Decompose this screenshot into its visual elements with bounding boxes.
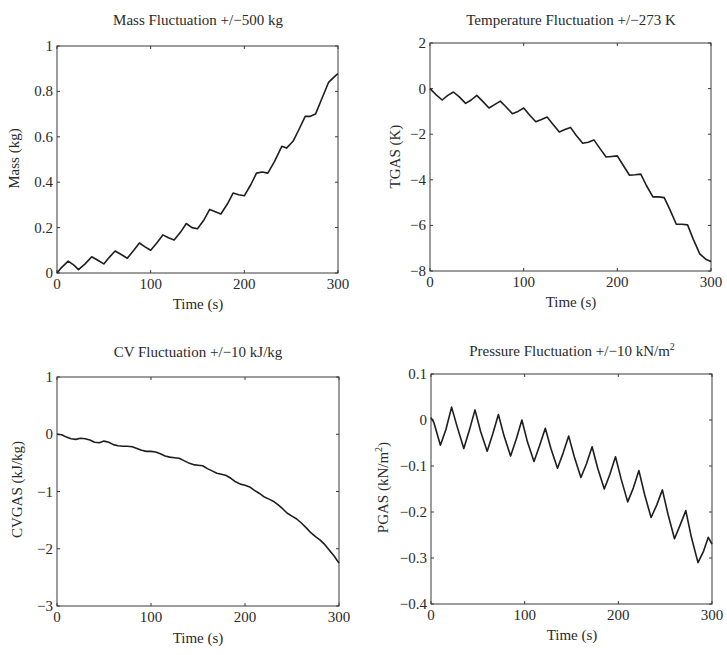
x-tick-label: 300 xyxy=(701,607,724,623)
y-tick-label: −0.3 xyxy=(400,550,427,566)
y-tick-label: 0.1 xyxy=(408,366,427,382)
y-tick-label: 0 xyxy=(420,412,428,428)
y-tick-label: −0.4 xyxy=(400,596,428,612)
x-tick-label: 100 xyxy=(513,607,536,623)
pressure-panel: Pressure Fluctuation +/−10 kN/m2 PGAS (k… xyxy=(0,0,727,655)
x-tick-label: 200 xyxy=(607,607,630,623)
axes-box xyxy=(431,374,712,604)
y-tick-label: −0.1 xyxy=(400,458,427,474)
pressure-plot: 0100200300−0.4−0.3−0.2−0.100.1 xyxy=(0,0,727,655)
x-tick-label: 0 xyxy=(427,607,435,623)
data-line xyxy=(431,407,712,562)
y-tick-label: −0.2 xyxy=(400,504,427,520)
